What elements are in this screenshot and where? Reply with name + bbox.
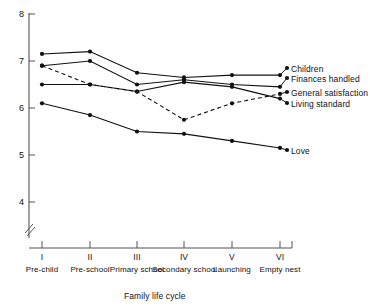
x-tick-label: II bbox=[70, 252, 110, 262]
data-point bbox=[135, 89, 139, 93]
legend-marker bbox=[285, 90, 289, 94]
x-tick-label: III bbox=[117, 252, 157, 262]
data-point bbox=[88, 82, 92, 86]
data-point bbox=[182, 80, 186, 84]
data-point bbox=[40, 82, 44, 86]
data-point bbox=[182, 118, 186, 122]
series-line-finances-handled bbox=[42, 61, 280, 87]
legend-marker bbox=[285, 148, 289, 152]
y-tick-label: 5 bbox=[8, 150, 24, 160]
legend-item-living-standard: Living standard bbox=[291, 99, 350, 109]
data-point bbox=[135, 129, 139, 133]
x-tick-label: VI bbox=[260, 252, 300, 262]
legend-item-general-satisfaction: General satisfaction bbox=[291, 88, 368, 98]
chart-series-layer bbox=[40, 50, 282, 151]
x-axis-title: Family life cycle bbox=[124, 291, 186, 301]
legend-marker bbox=[285, 66, 289, 70]
legend-item-finances-handled: Finances handled bbox=[291, 74, 360, 84]
chart-axes bbox=[25, 13, 292, 248]
data-point bbox=[88, 50, 92, 54]
legend-item-love: Love bbox=[291, 146, 310, 156]
data-point bbox=[230, 101, 234, 105]
x-category-label: Empty nest bbox=[248, 265, 312, 275]
data-point bbox=[230, 139, 234, 143]
data-point bbox=[230, 85, 234, 89]
data-point bbox=[88, 113, 92, 117]
y-tick-label: 8 bbox=[8, 9, 24, 19]
data-point bbox=[40, 101, 44, 105]
y-tick-label: 7 bbox=[8, 56, 24, 66]
y-tick-label: 6 bbox=[8, 103, 24, 113]
series-line-love bbox=[42, 103, 280, 148]
y-tick-label: 4 bbox=[8, 197, 24, 207]
x-tick-label: IV bbox=[164, 252, 204, 262]
data-point bbox=[135, 71, 139, 75]
chart-figure: 8 7 6 5 4 I II III IV V VI Pre-child Pre… bbox=[0, 0, 370, 308]
x-tick-label: V bbox=[212, 252, 252, 262]
x-tick-label: I bbox=[22, 252, 62, 262]
chart-legend-leaders bbox=[280, 66, 289, 152]
legend-marker bbox=[285, 76, 289, 80]
data-point bbox=[182, 132, 186, 136]
data-point bbox=[135, 82, 139, 86]
series-line-children bbox=[42, 52, 280, 78]
data-point bbox=[230, 73, 234, 77]
data-point bbox=[88, 59, 92, 63]
legend-marker bbox=[285, 101, 289, 105]
data-point bbox=[40, 52, 44, 56]
data-point bbox=[40, 64, 44, 68]
legend-item-children: Children bbox=[291, 64, 323, 74]
